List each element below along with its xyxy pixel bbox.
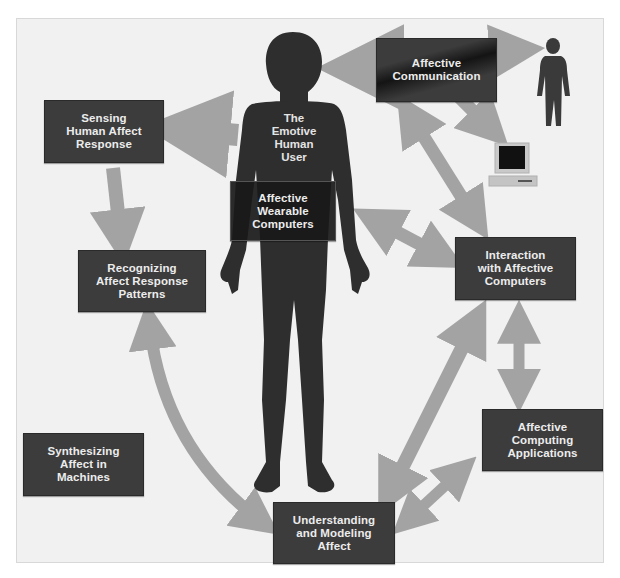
node-label: Recognizing Affect Response Patterns xyxy=(96,262,188,301)
arrow-interaction-figure xyxy=(378,222,444,257)
arrow-understanding-applications xyxy=(410,470,462,518)
node-label: Synthesizing Affect in Machines xyxy=(47,445,119,484)
node-sensing-human-affect-response: Sensing Human Affect Response xyxy=(44,100,164,163)
node-label: Affective Wearable Computers xyxy=(252,192,314,231)
arrow-communication-interaction xyxy=(412,118,476,220)
node-label: Affective Computing Applications xyxy=(507,421,577,460)
node-recognizing-affect-response-patterns: Recognizing Affect Response Patterns xyxy=(78,250,206,312)
node-affective-computing-applications: Affective Computing Applications xyxy=(482,409,603,471)
node-synthesizing-affect-in-machines: Synthesizing Affect in Machines xyxy=(23,433,144,496)
arrow-recognizing-understanding xyxy=(150,328,262,522)
arrow-figure-to-sensing xyxy=(182,130,238,135)
center-figure-label: The Emotive Human User xyxy=(262,112,326,164)
arrow-understanding-interaction xyxy=(392,322,475,488)
human-silhouette-large-icon xyxy=(220,32,369,492)
node-understanding-and-modeling-affect: Understanding and Modeling Affect xyxy=(273,502,395,564)
human-silhouette-small-icon xyxy=(537,38,570,126)
arrow-communication-to-person xyxy=(495,50,520,52)
node-label: Understanding and Modeling Affect xyxy=(293,514,375,553)
node-label: Affective Communication xyxy=(392,57,480,83)
node-interaction-with-affective-computers: Interaction with Affective Computers xyxy=(455,237,576,300)
node-label: Sensing Human Affect Response xyxy=(66,112,142,151)
node-affective-communication: Affective Communication xyxy=(376,38,497,102)
node-affective-wearable-computers: Affective Wearable Computers xyxy=(230,181,336,241)
arrow-sensing-to-recognizing xyxy=(113,168,121,240)
node-label: Interaction with Affective Computers xyxy=(478,249,554,288)
computer-icon xyxy=(489,143,537,186)
